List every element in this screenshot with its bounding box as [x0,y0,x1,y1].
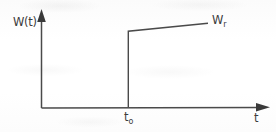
step-time-label-subscript: o [129,117,134,126]
plot-drawing [0,0,276,132]
x-axis-label: t [254,113,259,125]
step-function-figure: W(t) t Wr to [0,0,276,132]
step-function-curve [128,23,208,107]
step-time-label: to [124,112,133,126]
plateau-label-main: W [212,13,223,27]
y-axis-arrowhead-icon [37,9,46,22]
plateau-level-label: Wr [212,15,226,29]
y-axis-label: W(t) [13,17,37,29]
x-axis-line [42,108,263,109]
plateau-label-subscript: r [223,20,226,29]
